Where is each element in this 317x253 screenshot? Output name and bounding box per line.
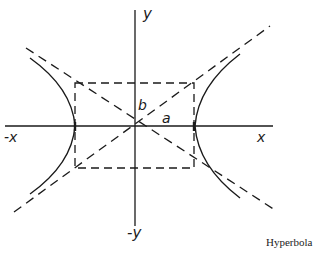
asymptote-negative-slope [26, 48, 275, 210]
label-b: b [138, 97, 147, 113]
label-x-pos: x [256, 129, 266, 145]
label-y-pos: y [142, 5, 153, 23]
label-y-neg: -y [127, 224, 142, 242]
asymptote-positive-slope [14, 26, 270, 212]
figure-caption: Hyperbola [266, 236, 313, 248]
label-a: a [162, 110, 171, 126]
label-x-neg: -x [4, 129, 18, 145]
hyperbola-diagram: y -y -x x b a Hyperbola [0, 0, 317, 253]
